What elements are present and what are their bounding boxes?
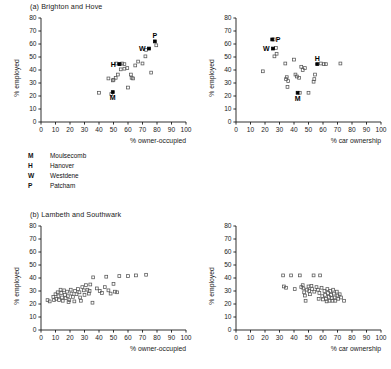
- svg-text:70: 70: [139, 126, 147, 133]
- panel-b-right: 010203040506070800102030405060708090100%…: [196, 208, 391, 353]
- scatter-plot-b-car-ownership: 010203040506070800102030405060708090100%…: [196, 208, 391, 353]
- svg-text:M: M: [295, 95, 301, 102]
- svg-text:60: 60: [124, 126, 132, 133]
- scatter-plot-a-owner-occupied: 010203040506070800102030405060708090100%…: [0, 0, 196, 145]
- svg-text:% owner-occupied: % owner-occupied: [130, 137, 186, 145]
- svg-text:50: 50: [224, 261, 232, 268]
- svg-text:0: 0: [39, 334, 43, 341]
- svg-text:60: 60: [29, 40, 37, 47]
- svg-text:10: 10: [224, 105, 232, 112]
- svg-text:70: 70: [224, 235, 232, 242]
- svg-text:30: 30: [81, 334, 89, 341]
- svg-text:20: 20: [224, 92, 232, 99]
- svg-text:% owner-occupied: % owner-occupied: [130, 345, 186, 353]
- panel-b-left: (b) Lambeth and Southwark 01020304050607…: [0, 208, 196, 353]
- svg-text:% employed: % employed: [208, 267, 216, 305]
- svg-text:40: 40: [95, 334, 103, 341]
- legend-label-m: Moulsecomb: [50, 152, 86, 159]
- panel-b-title: (b) Lambeth and Southwark: [30, 210, 121, 219]
- svg-text:W: W: [139, 45, 146, 52]
- svg-text:40: 40: [290, 126, 298, 133]
- svg-text:40: 40: [29, 274, 37, 281]
- svg-text:20: 20: [29, 300, 37, 307]
- svg-text:0: 0: [228, 118, 232, 125]
- svg-text:0: 0: [39, 126, 43, 133]
- svg-text:60: 60: [224, 40, 232, 47]
- legend-key-m: M: [28, 152, 34, 159]
- svg-text:60: 60: [319, 126, 327, 133]
- svg-text:100: 100: [180, 126, 191, 133]
- svg-text:50: 50: [29, 261, 37, 268]
- svg-text:80: 80: [153, 126, 161, 133]
- legend-key-w: W: [28, 172, 34, 179]
- svg-text:40: 40: [224, 274, 232, 281]
- svg-text:10: 10: [247, 334, 255, 341]
- svg-text:H: H: [315, 55, 320, 62]
- scatter-plot-a-car-ownership: 010203040506070800102030405060708090100%…: [196, 0, 391, 145]
- svg-text:80: 80: [29, 222, 37, 229]
- svg-text:50: 50: [305, 334, 313, 341]
- legend-label-w: Westdene: [50, 172, 79, 179]
- clipped-bottom-text: [28, 361, 148, 369]
- svg-text:100: 100: [375, 126, 386, 133]
- svg-text:% car ownership: % car ownership: [331, 345, 381, 353]
- panel-a-left: (a) Brighton and Hove 010203040506070800…: [0, 0, 196, 145]
- svg-text:60: 60: [319, 334, 327, 341]
- svg-text:20: 20: [66, 334, 74, 341]
- svg-text:90: 90: [168, 334, 176, 341]
- svg-text:0: 0: [234, 334, 238, 341]
- svg-text:100: 100: [180, 334, 191, 341]
- svg-text:50: 50: [29, 53, 37, 60]
- svg-text:0: 0: [234, 126, 238, 133]
- svg-text:60: 60: [29, 248, 37, 255]
- svg-text:30: 30: [224, 79, 232, 86]
- svg-text:40: 40: [290, 334, 298, 341]
- svg-text:50: 50: [110, 126, 118, 133]
- svg-text:90: 90: [363, 126, 371, 133]
- svg-text:80: 80: [29, 14, 37, 21]
- svg-text:40: 40: [224, 66, 232, 73]
- svg-text:40: 40: [95, 126, 103, 133]
- legend-label-p: Patcham: [50, 182, 75, 189]
- svg-text:40: 40: [29, 66, 37, 73]
- svg-text:30: 30: [29, 287, 37, 294]
- svg-text:80: 80: [153, 334, 161, 341]
- svg-text:90: 90: [168, 126, 176, 133]
- svg-text:60: 60: [124, 334, 132, 341]
- svg-text:50: 50: [110, 334, 118, 341]
- svg-text:20: 20: [261, 334, 269, 341]
- svg-text:10: 10: [29, 105, 37, 112]
- svg-text:H: H: [111, 61, 116, 68]
- svg-text:50: 50: [305, 126, 313, 133]
- svg-text:0: 0: [228, 326, 232, 333]
- svg-text:60: 60: [224, 248, 232, 255]
- svg-text:70: 70: [334, 334, 342, 341]
- panel-a-right: 010203040506070800102030405060708090100%…: [196, 0, 391, 145]
- svg-text:0: 0: [33, 118, 37, 125]
- svg-text:% employed: % employed: [13, 267, 21, 305]
- panel-a-title: (a) Brighton and Hove: [30, 2, 102, 11]
- svg-text:P: P: [152, 32, 157, 39]
- legend-label-h: Hanover: [50, 162, 74, 169]
- svg-text:30: 30: [276, 334, 284, 341]
- svg-text:20: 20: [261, 126, 269, 133]
- svg-text:70: 70: [334, 126, 342, 133]
- svg-text:P: P: [276, 36, 281, 43]
- svg-text:10: 10: [247, 126, 255, 133]
- svg-text:100: 100: [375, 334, 386, 341]
- svg-text:70: 70: [224, 27, 232, 34]
- svg-text:10: 10: [52, 126, 60, 133]
- svg-text:% employed: % employed: [208, 59, 216, 97]
- svg-text:30: 30: [29, 79, 37, 86]
- svg-text:10: 10: [29, 313, 37, 320]
- svg-text:% car ownership: % car ownership: [331, 137, 381, 145]
- svg-text:50: 50: [224, 53, 232, 60]
- svg-text:% employed: % employed: [13, 59, 21, 97]
- svg-text:80: 80: [224, 14, 232, 21]
- svg-text:30: 30: [224, 287, 232, 294]
- legend-key-p: P: [28, 182, 32, 189]
- svg-text:30: 30: [276, 126, 284, 133]
- svg-text:30: 30: [81, 126, 89, 133]
- svg-text:70: 70: [29, 27, 37, 34]
- svg-text:20: 20: [66, 126, 74, 133]
